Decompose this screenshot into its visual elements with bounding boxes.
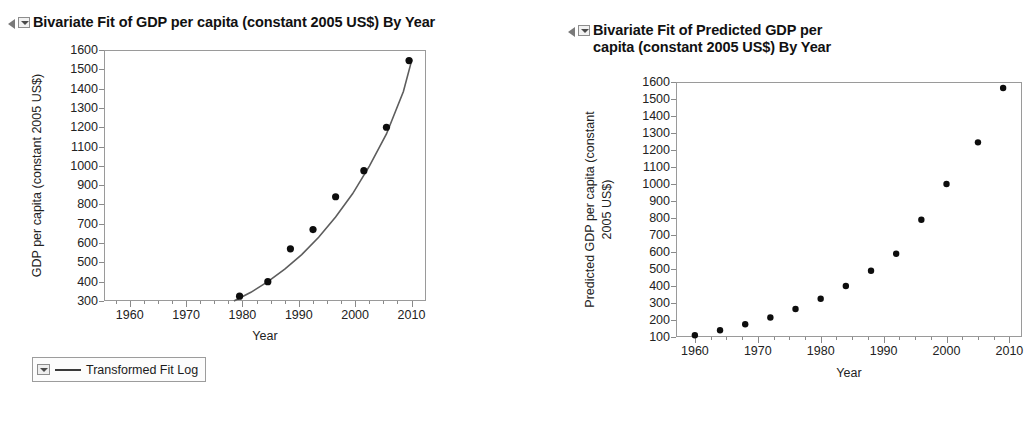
- left-x-tick: 1980: [212, 309, 272, 322]
- right-y-tick: 700: [616, 229, 670, 242]
- left-x-tick: 1970: [156, 309, 216, 322]
- left-panel-header: Bivariate Fit of GDP per capita (constan…: [8, 14, 542, 31]
- data-point: [918, 217, 924, 223]
- left-y-tick: 600: [44, 237, 98, 250]
- left-y-tick: 1400: [44, 83, 98, 96]
- right-y-tick: 800: [616, 212, 670, 225]
- triangle-right-icon[interactable]: [8, 19, 15, 29]
- data-point: [843, 283, 849, 289]
- left-y-tick-labels: 1600 1500 1400 1300 1200 1100 1000 900 8…: [44, 50, 98, 301]
- right-x-tick: 2010: [979, 345, 1036, 358]
- right-y-tick: 1400: [616, 110, 670, 123]
- data-point: [383, 124, 390, 131]
- right-y-tick: 1000: [616, 178, 670, 191]
- data-point: [1000, 85, 1006, 91]
- right-x-tick: 1990: [854, 345, 914, 358]
- data-point: [742, 321, 748, 327]
- right-panel-title-line2: capita (constant 2005 US$) By Year: [593, 39, 831, 56]
- right-x-tick: 1970: [728, 345, 788, 358]
- data-point: [309, 226, 316, 233]
- data-point: [264, 278, 271, 285]
- right-y-tick: 1600: [616, 76, 670, 89]
- left-x-axis-title: Year: [104, 329, 426, 343]
- right-y-tick: 900: [616, 195, 670, 208]
- right-y-tick: 300: [616, 297, 670, 310]
- line-swatch-icon: [55, 369, 81, 371]
- left-y-tick: 1600: [44, 44, 98, 57]
- data-point: [817, 296, 823, 302]
- data-point: [405, 57, 412, 64]
- left-y-tick: 700: [44, 218, 98, 231]
- left-y-tick: 800: [44, 198, 98, 211]
- data-point: [717, 327, 723, 333]
- data-point: [287, 245, 294, 252]
- right-plot-series: [676, 82, 1022, 337]
- right-x-axis-title: Year: [676, 366, 1022, 380]
- context-menu-icon[interactable]: [578, 25, 590, 36]
- left-y-tick: 1100: [44, 141, 98, 154]
- data-point: [332, 193, 339, 200]
- right-y-tick: 200: [616, 314, 670, 327]
- right-panel-header: Bivariate Fit of Predicted GDP per capit…: [568, 22, 988, 56]
- data-point: [692, 332, 698, 338]
- right-y-tick: 1300: [616, 127, 670, 140]
- left-plot-series: [104, 50, 426, 301]
- right-y-tick: 400: [616, 280, 670, 293]
- context-menu-icon[interactable]: [18, 17, 30, 28]
- left-panel-title: Bivariate Fit of GDP per capita (constan…: [33, 14, 435, 31]
- data-point: [767, 314, 773, 320]
- right-y-tick: 1500: [616, 93, 670, 106]
- data-point: [792, 306, 798, 312]
- right-y-tick: 1200: [616, 144, 670, 157]
- right-x-tickmarks: [676, 337, 1022, 343]
- left-y-axis-title: GDP per capita (constant 2005 US$): [30, 50, 44, 301]
- left-y-tick: 400: [44, 276, 98, 289]
- right-x-tick-labels: 1960 1970 1980 1990 2000 2010: [676, 345, 1022, 363]
- left-scatter-points: [236, 57, 413, 300]
- right-panel-title: Bivariate Fit of Predicted GDP per capit…: [593, 22, 831, 56]
- legend-label: Transformed Fit Log: [86, 363, 198, 377]
- right-x-tick: 2000: [917, 345, 977, 358]
- left-y-tick: 1200: [44, 121, 98, 134]
- context-menu-icon[interactable]: [37, 364, 50, 375]
- right-y-tick-labels: 1600 1500 1400 1300 1200 1100 1000 900 8…: [616, 82, 670, 337]
- right-x-tick: 1980: [791, 345, 851, 358]
- right-y-tick: 600: [616, 246, 670, 259]
- right-y-tick: 100: [616, 331, 670, 344]
- right-x-tick: 1960: [665, 345, 725, 358]
- right-y-axis-title: Predicted GDP per capita (constant 2005 …: [582, 82, 618, 337]
- data-point: [975, 139, 981, 145]
- data-point: [943, 181, 949, 187]
- left-y-tick: 1000: [44, 160, 98, 173]
- data-point: [893, 251, 899, 257]
- right-y-tick: 500: [616, 263, 670, 276]
- left-chart-panel: Bivariate Fit of GDP per capita (constan…: [0, 0, 546, 421]
- left-x-tick: 2000: [325, 309, 385, 322]
- triangle-right-icon[interactable]: [568, 27, 575, 37]
- data-point: [236, 293, 243, 300]
- data-point: [868, 268, 874, 274]
- left-y-tick: 300: [44, 295, 98, 308]
- left-y-tick: 1500: [44, 63, 98, 76]
- left-y-tick: 1300: [44, 102, 98, 115]
- right-panel-title-line1: Bivariate Fit of Predicted GDP per: [593, 22, 831, 39]
- left-x-tick: 2010: [382, 309, 442, 322]
- data-point: [360, 167, 367, 174]
- left-x-tick: 1960: [100, 309, 160, 322]
- right-chart-panel: Bivariate Fit of Predicted GDP per capit…: [560, 0, 1036, 421]
- transformed-fit-log-curve: [234, 60, 412, 301]
- left-x-tick-labels: 1960 1970 1980 1990 2000 2010: [104, 309, 426, 327]
- left-x-tickmarks: [104, 301, 426, 307]
- right-scatter-points: [692, 85, 1007, 339]
- right-y-tick: 1100: [616, 161, 670, 174]
- left-y-tick: 900: [44, 179, 98, 192]
- left-chart-legend[interactable]: Transformed Fit Log: [32, 357, 206, 382]
- left-y-tick: 500: [44, 256, 98, 269]
- left-x-tick: 1990: [269, 309, 329, 322]
